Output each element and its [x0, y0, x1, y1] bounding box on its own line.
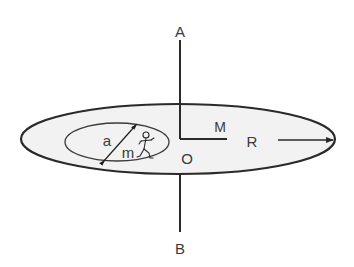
- outer-disk: [21, 104, 335, 174]
- label-disk-mass: M: [214, 119, 226, 135]
- label-diameter: a: [103, 132, 112, 149]
- label-center: O: [181, 150, 193, 167]
- label-person-mass: m: [122, 144, 135, 161]
- label-disk-radius: R: [247, 133, 258, 150]
- diagram-canvas: A B O M R a m: [0, 0, 354, 267]
- label-axis-top: A: [175, 23, 185, 40]
- rotating-disk-diagram: A B O M R a m: [0, 0, 354, 267]
- label-axis-bottom: B: [175, 240, 185, 257]
